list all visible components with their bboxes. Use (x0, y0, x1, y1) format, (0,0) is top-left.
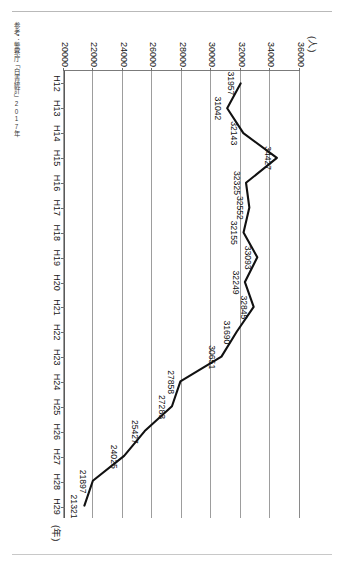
data-point-label: 32845 (240, 295, 249, 319)
data-point-label: 31690 (223, 320, 232, 344)
x-axis-tick-label: H17 (52, 200, 61, 217)
x-axis-tick-label: H13 (52, 100, 61, 117)
y-axis-tick-label: 22000 (89, 42, 98, 67)
data-point-label: 32143 (230, 121, 239, 145)
data-point-label: 34427 (263, 146, 272, 170)
data-point-label: 32552 (236, 196, 245, 220)
y-axis-tick-label: 32000 (237, 42, 246, 67)
data-point-label: 32325 (232, 171, 241, 195)
data-point-label: 33093 (244, 246, 253, 270)
x-axis-tick-label: H24 (52, 374, 61, 391)
y-axis-tick-label: 26000 (148, 42, 157, 67)
y-axis-tick-mark (63, 68, 64, 71)
x-axis-tick-label: H21 (52, 299, 61, 316)
data-point-label: 21321 (70, 495, 79, 519)
plot-area: 2000022000240002600028000300003200034000… (64, 70, 300, 518)
data-point-label: 27283 (158, 395, 167, 419)
x-axis-tick-label: H28 (52, 473, 61, 490)
data-point-label: 31042 (213, 96, 222, 120)
line-chart: (人) 200002200024000260002800030000320003… (26, 34, 322, 534)
x-axis-tick-label: H18 (52, 225, 61, 242)
rotated-chart-stage: (人) 200002200024000260002800030000320003… (0, 0, 344, 568)
x-axis-tick-label: H23 (52, 349, 61, 366)
x-axis-unit-label: (年) (52, 525, 62, 541)
x-axis-tick-label: H19 (52, 249, 61, 266)
x-axis-tick-label: H16 (52, 175, 61, 192)
data-point-label: 24025 (110, 445, 119, 469)
y-axis-tick-label: 34000 (266, 42, 275, 67)
x-axis-tick-label: H14 (52, 125, 61, 142)
y-axis-tick-label: 36000 (296, 42, 305, 67)
x-axis-tick-label: H25 (52, 399, 61, 416)
data-point-label: 25427 (130, 420, 139, 444)
y-axis-tick-label: 28000 (178, 42, 187, 67)
data-point-label: 31957 (227, 71, 236, 95)
y-axis-unit-label: (人) (306, 36, 320, 52)
x-axis-tick-label: H29 (52, 498, 61, 515)
data-point-label: 27858 (166, 370, 175, 394)
y-axis-tick-label: 30000 (207, 42, 216, 67)
data-point-label: 30651 (208, 345, 217, 369)
data-point-label: 32155 (230, 221, 239, 245)
x-axis-tick-label: H15 (52, 150, 61, 167)
y-axis-tick-label: 20000 (60, 42, 69, 67)
x-axis-tick-label: H12 (52, 75, 61, 92)
series-line (65, 71, 300, 518)
data-point-label: 32249 (231, 271, 240, 295)
x-axis-tick-label: H20 (52, 274, 61, 291)
y-axis-tick-label: 24000 (119, 42, 128, 67)
x-axis-tick-label: H26 (52, 424, 61, 441)
gridline (63, 71, 64, 518)
x-axis-tick-label: H22 (52, 324, 61, 341)
x-axis-tick-label: H27 (52, 449, 61, 466)
data-point-label: 21897 (78, 470, 87, 494)
